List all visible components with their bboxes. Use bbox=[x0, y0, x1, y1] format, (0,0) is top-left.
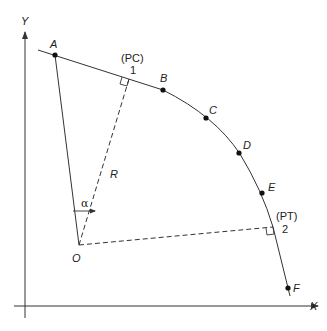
right-angle-marker-pt bbox=[266, 227, 274, 235]
radius-o-to-pc bbox=[79, 79, 129, 245]
circular-arc bbox=[163, 90, 273, 227]
center-label-o: O bbox=[72, 252, 81, 264]
line-o-to-a bbox=[55, 55, 79, 245]
point-b bbox=[160, 87, 165, 92]
label-f: F bbox=[293, 282, 301, 294]
label-c: C bbox=[209, 104, 217, 116]
label-d: D bbox=[243, 139, 251, 151]
points bbox=[52, 52, 290, 290]
label-a: A bbox=[49, 38, 57, 50]
label-e: E bbox=[268, 181, 276, 193]
y-axis-label: Y bbox=[21, 15, 29, 27]
axes: Y X bbox=[14, 15, 318, 318]
radius-label: R bbox=[110, 168, 118, 180]
point-f bbox=[285, 285, 290, 290]
label-b: B bbox=[160, 72, 167, 84]
point-a bbox=[52, 52, 57, 57]
curve-diagram: Y X α R A B C D E F O (PC) 1 (PT) 2 bbox=[0, 0, 327, 331]
pt-tag: (PT) bbox=[276, 210, 297, 222]
radius-o-to-pt bbox=[79, 227, 273, 245]
alpha-label: α bbox=[81, 197, 89, 210]
pc-tag: (PC) bbox=[121, 52, 144, 64]
pc-number: 1 bbox=[130, 64, 136, 76]
point-c bbox=[203, 115, 208, 120]
point-d bbox=[236, 150, 241, 155]
point-e bbox=[259, 190, 264, 195]
pt-number: 2 bbox=[282, 223, 288, 235]
x-axis-label: X bbox=[309, 300, 318, 312]
